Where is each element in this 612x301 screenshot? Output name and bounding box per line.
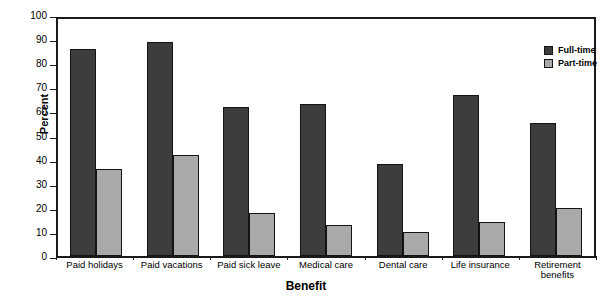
- x-axis-category-label: Paid vacations: [133, 260, 210, 280]
- y-axis-tick-label: 10: [36, 227, 47, 238]
- x-axis-category-label: Paid holidays: [56, 260, 133, 280]
- bar-group: [58, 19, 135, 256]
- y-axis-tick-label: 60: [36, 106, 47, 117]
- bar-group: [288, 19, 365, 256]
- x-axis-category-labels: Paid holidaysPaid vacationsPaid sick lea…: [56, 260, 596, 280]
- legend-item-full-time: Full-time: [544, 45, 597, 55]
- bar: [453, 95, 479, 256]
- bar: [173, 155, 199, 256]
- x-axis-category-label: Dental care: [365, 260, 442, 280]
- legend-label-full-time: Full-time: [558, 45, 596, 55]
- bar: [556, 208, 582, 256]
- y-axis-tick-label: 0: [41, 251, 47, 262]
- plot-area: Full-time Part-time: [56, 17, 596, 258]
- x-axis-category-label: Life insurance: [442, 260, 519, 280]
- bar: [249, 213, 275, 256]
- bar: [377, 164, 403, 256]
- x-axis-tick-mark: [596, 256, 597, 260]
- bar: [326, 225, 352, 256]
- y-axis-tick-label: 20: [36, 203, 47, 214]
- x-axis-category-label: Paid sick leave: [210, 260, 287, 280]
- x-axis-category-label: Medical care: [287, 260, 364, 280]
- bar: [96, 169, 122, 256]
- legend: Full-time Part-time: [544, 45, 597, 68]
- y-axis-tick-label: 90: [36, 34, 47, 45]
- legend-label-part-time: Part-time: [558, 58, 597, 68]
- bar: [223, 107, 249, 256]
- bar: [403, 232, 429, 256]
- y-axis-tick-label: 30: [36, 179, 47, 190]
- bar-group: [135, 19, 212, 256]
- y-axis-tick-label: 70: [36, 82, 47, 93]
- legend-swatch-full-time-icon: [544, 46, 553, 55]
- bar-groups: [58, 19, 594, 256]
- y-axis-tick-label: 100: [30, 10, 47, 21]
- legend-swatch-part-time-icon: [544, 59, 553, 68]
- legend-item-part-time: Part-time: [544, 58, 597, 68]
- bar-group: [364, 19, 441, 256]
- bar-group: [441, 19, 518, 256]
- y-axis-tick-label: 40: [36, 155, 47, 166]
- bar: [147, 42, 173, 256]
- x-axis-category-label: Retirement benefits: [519, 260, 596, 280]
- bar-group: [211, 19, 288, 256]
- bar: [479, 222, 505, 256]
- x-axis-title: Benefit: [0, 279, 612, 293]
- y-axis-tick-label: 50: [36, 131, 47, 142]
- bar: [300, 104, 326, 256]
- bar: [70, 49, 96, 256]
- y-axis-ticks: 1009080706050403020100: [0, 17, 56, 258]
- y-axis-tick-label: 80: [36, 58, 47, 69]
- bar-chart: Percent 1009080706050403020100 Full-time…: [0, 0, 612, 301]
- bar: [530, 123, 556, 256]
